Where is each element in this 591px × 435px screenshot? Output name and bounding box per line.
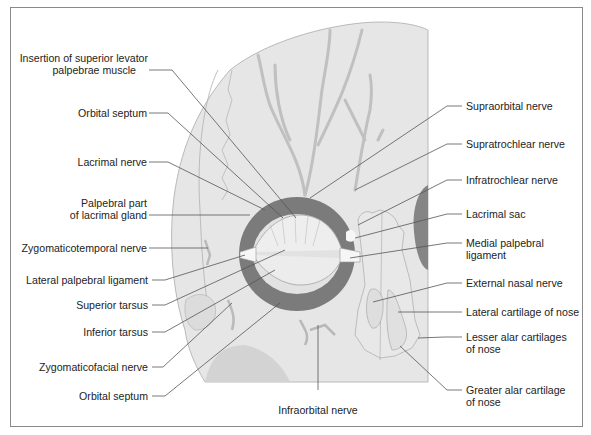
label-orbital-septum-lower: Orbital septum [79,390,148,402]
label-greater-alar-cartilage: Greater alar cartilage of nose [466,384,566,408]
label-supratrochlear-nerve: Supratrochlear nerve [466,138,565,150]
label-line: Lesser alar cartilages [466,331,567,343]
label-line: ligament [466,249,544,261]
label-line: Greater alar cartilage [466,384,566,396]
label-zygomaticofacial-nerve: Zygomaticofacial nerve [39,361,148,373]
label-lateral-cartilage-nose: Lateral cartilage of nose [466,306,579,318]
label-line: of nose [466,396,566,408]
label-supraorbital-nerve: Supraorbital nerve [466,100,553,112]
label-superior-tarsus: Superior tarsus [76,299,148,311]
label-zygomaticotemporal-nerve: Zygomaticotemporal nerve [22,242,147,254]
label-inferior-tarsus: Inferior tarsus [83,326,148,338]
label-lacrimal-nerve: Lacrimal nerve [78,156,147,168]
label-line: of lacrimal gland [70,209,147,221]
label-lacrimal-sac: Lacrimal sac [466,208,525,220]
label-external-nasal-nerve: External nasal nerve [466,277,563,289]
label-infraorbital-nerve: Infraorbital nerve [268,404,368,416]
label-orbital-septum-upper: Orbital septum [78,107,147,119]
label-line: Medial palpebral [466,237,544,249]
label-line: Insertion of superior levator [20,52,148,64]
label-line: Palpebral part [70,197,147,209]
label-lateral-palpebral-ligament: Lateral palpebral ligament [26,274,148,286]
label-line: palpebrae muscle [20,64,148,76]
label-line: of nose [466,343,567,355]
label-palpebral-lacrimal-gland: Palpebral part of lacrimal gland [70,197,147,221]
label-lesser-alar-cartilages: Lesser alar cartilages of nose [466,331,567,355]
label-insertion-superior-levator: Insertion of superior levator palpebrae … [20,52,148,76]
label-infratrochlear-nerve: Infratrochlear nerve [466,174,558,186]
label-medial-palpebral-ligament: Medial palpebral ligament [466,237,544,261]
